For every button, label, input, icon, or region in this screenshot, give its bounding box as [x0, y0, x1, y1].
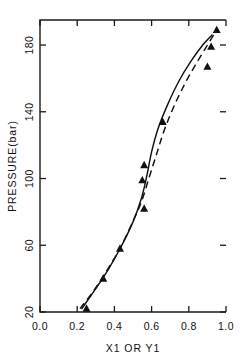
- data-marker-9: [213, 26, 221, 33]
- data-marker-2: [116, 244, 124, 251]
- y-tick-label-0: 20: [23, 306, 35, 318]
- pressure-composition-chart: 0.00.20.40.60.81.0 2060100140180 X1 OR Y…: [0, 0, 248, 364]
- x-tick-label-5: 1.0: [218, 320, 234, 332]
- y-tick-labels: 2060100140180: [23, 36, 35, 319]
- x-tick-labels: 0.00.20.40.60.81.0: [32, 320, 234, 332]
- data-marker-5: [140, 161, 148, 168]
- x-tick-label-0: 0.0: [32, 320, 48, 332]
- y-tick-label-1: 60: [23, 239, 35, 251]
- curve-series: [80, 32, 216, 309]
- x-tick-label-3: 0.6: [144, 320, 160, 332]
- plot-frame: [40, 20, 226, 312]
- bubble-curve-solid: [82, 35, 212, 309]
- data-marker-8: [207, 42, 215, 49]
- y-tick-label-4: 180: [23, 36, 35, 55]
- data-marker-7: [203, 62, 211, 69]
- tick-marks: [40, 20, 226, 312]
- y-axis-title: PRESSURE(bar): [6, 120, 18, 212]
- data-marker-4: [138, 176, 146, 183]
- x-tick-label-1: 0.2: [69, 320, 85, 332]
- x-tick-label-2: 0.4: [107, 320, 123, 332]
- chart-canvas: 0.00.20.40.60.81.0 2060100140180 X1 OR Y…: [0, 0, 248, 364]
- x-axis-title: X1 OR Y1: [106, 342, 160, 354]
- x-tick-label-4: 0.8: [181, 320, 197, 332]
- data-point-markers: [83, 26, 221, 312]
- y-tick-label-2: 100: [23, 169, 35, 188]
- axes-frame: [40, 20, 226, 312]
- y-tick-label-3: 140: [23, 102, 35, 121]
- data-marker-6: [159, 117, 167, 124]
- data-marker-3: [140, 204, 148, 211]
- data-marker-1: [99, 274, 107, 281]
